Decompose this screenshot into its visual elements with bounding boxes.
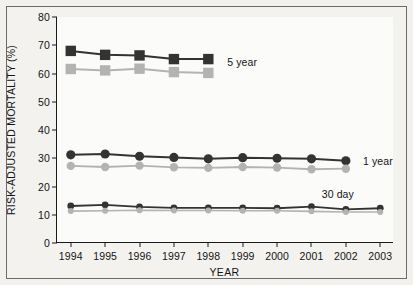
data-point-marker: [272, 154, 281, 163]
data-point-marker: [274, 208, 280, 214]
data-point-marker: [205, 208, 211, 214]
series-1-year: [66, 149, 350, 165]
data-point-marker: [102, 201, 109, 208]
y-tick-label: 50: [38, 96, 50, 108]
x-tick-label: 2003: [368, 250, 392, 262]
data-point-marker: [238, 153, 247, 162]
x-tick-label: 1998: [196, 250, 220, 262]
x-tick-label: 1994: [59, 250, 83, 262]
data-point-marker: [66, 46, 76, 56]
data-point-marker: [67, 162, 75, 170]
x-tick-label: 1996: [128, 250, 152, 262]
data-point-marker: [308, 208, 314, 214]
y-tick-label: 70: [38, 39, 50, 51]
y-axis-title: RISK-ADJUSTED MORTALITY (%): [5, 45, 17, 215]
data-point-marker: [170, 163, 178, 171]
data-point-marker: [342, 165, 350, 173]
series-line: [71, 205, 380, 210]
x-tick-label: 1995: [93, 250, 117, 262]
y-tick-label: 60: [38, 68, 50, 80]
data-series-layer: [57, 17, 394, 243]
y-tick-label: 30: [38, 152, 50, 164]
series-5-year: [66, 64, 214, 79]
plot-area: 01020304050607080 1994199519961997199819…: [56, 17, 393, 243]
data-point-marker: [203, 54, 213, 64]
y-tick-label: 10: [38, 209, 50, 221]
data-point-marker: [169, 153, 178, 162]
data-point-marker: [171, 208, 177, 214]
data-point-marker: [238, 163, 246, 171]
x-axis-title: YEAR: [56, 266, 393, 278]
data-point-marker: [307, 154, 316, 163]
x-tick-label: 1997: [162, 250, 186, 262]
series-label-1-year: 1 year: [363, 155, 393, 167]
data-point-marker: [134, 64, 144, 74]
data-point-marker: [169, 54, 179, 64]
y-tick-label: 40: [38, 124, 50, 136]
series-5-year: [66, 46, 214, 65]
series-line: [71, 210, 380, 212]
data-point-marker: [66, 64, 76, 74]
x-tick-label: 2002: [334, 250, 358, 262]
series-label-5-year: 5 year: [227, 56, 257, 68]
data-point-marker: [135, 152, 144, 161]
data-point-marker: [204, 164, 212, 172]
data-point-marker: [169, 67, 179, 77]
data-point-marker: [377, 209, 383, 215]
y-tick-label: 0: [44, 237, 50, 249]
data-point-marker: [341, 156, 350, 165]
data-point-marker: [100, 65, 110, 75]
data-point-marker: [68, 208, 74, 214]
data-point-marker: [273, 163, 281, 171]
data-point-marker: [307, 165, 315, 173]
data-point-marker: [101, 163, 109, 171]
data-point-marker: [240, 208, 246, 214]
y-tick-label: 80: [38, 11, 50, 23]
data-point-marker: [204, 154, 213, 163]
data-point-marker: [102, 208, 108, 214]
y-tick-label: 20: [38, 181, 50, 193]
data-point-marker: [343, 209, 349, 215]
data-point-marker: [101, 149, 110, 158]
data-point-marker: [100, 50, 110, 60]
x-tick-label: 2001: [300, 250, 324, 262]
data-point-marker: [135, 161, 143, 169]
data-point-marker: [134, 50, 144, 60]
x-tick-label: 2000: [265, 250, 289, 262]
data-point-marker: [203, 68, 213, 78]
data-point-marker: [137, 207, 143, 213]
series-label-30-day: 30 day: [322, 188, 354, 200]
figure-container: RISK-ADJUSTED MORTALITY (%) YEAR 0102030…: [0, 0, 413, 285]
x-tick-label: 1999: [231, 250, 255, 262]
data-point-marker: [66, 150, 75, 159]
